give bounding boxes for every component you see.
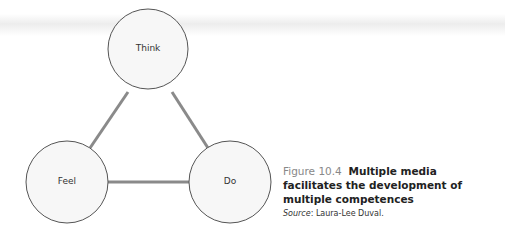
node-think-label: Think: [118, 43, 178, 53]
node-feel-label: Feel: [37, 176, 97, 186]
node-do-label: Do: [200, 176, 260, 186]
figure-number: Figure 10.4: [283, 165, 342, 177]
figure-source: Source: Laura-Lee Duval.: [283, 208, 498, 219]
edge-think-do: [172, 92, 208, 148]
edge-think-feel: [90, 92, 128, 148]
figure-caption: Figure 10.4 Multiple media facilitates t…: [283, 164, 498, 219]
source-label: Source: [283, 209, 311, 218]
source-text: : Laura-Lee Duval.: [311, 209, 384, 218]
